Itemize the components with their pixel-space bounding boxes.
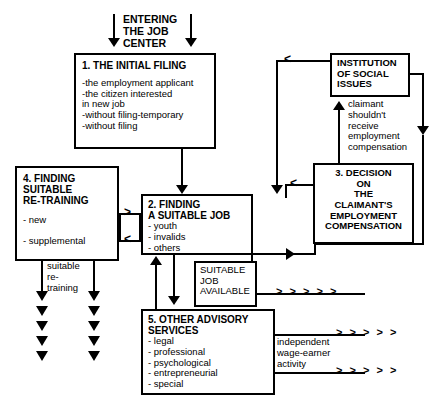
retraining-arrow-column-right <box>88 291 100 366</box>
outflow-arrows-3: > > > > > <box>336 365 398 376</box>
retraining-arrow-right-3 <box>88 321 100 331</box>
label-independent-activity: independent wage-earner activity <box>277 337 330 369</box>
arrowhead-institution-right <box>417 126 429 135</box>
box-initial-filing[interactable]: 1. THE INITIAL FILING -the employment ap… <box>74 53 216 149</box>
entry-arrowhead-left <box>108 38 120 47</box>
box-retraining-title: 4. FINDING SUITABLE RE-TRAINING <box>23 173 111 207</box>
retraining-arrow-right-2 <box>88 306 100 316</box>
entry-line-left <box>113 14 115 40</box>
arrowhead-advisory-to-job <box>150 256 162 265</box>
line-institution-right-v <box>422 73 424 129</box>
box-decision[interactable]: 3. DECISION ON THE CLAIMANT'S EMPLOYMENT… <box>313 163 414 244</box>
chevron-decision-inflow: < <box>290 177 297 189</box>
box-advisory-services[interactable]: 5. OTHER ADVISORY SERVICES - legal - pro… <box>141 309 275 395</box>
box-retraining-items: - new - supplemental <box>23 215 111 247</box>
entry-line-right <box>190 14 192 40</box>
line-job-to-decision-h <box>253 253 315 255</box>
box-suitable-job-available[interactable]: SUITABLE JOB AVAILABLE <box>194 261 257 307</box>
box-finding-job-items: - youth - invalids - others <box>148 221 246 253</box>
box-finding-job-title: 2. FINDING A SUITABLE JOB <box>148 199 246 221</box>
line-decision-feedback-v <box>285 184 287 198</box>
retraining-arrow-left-5 <box>36 351 48 361</box>
arrowhead-filing-to-job <box>176 185 188 194</box>
outflow-arrows-2: > > > > > <box>336 327 398 338</box>
line-decision-to-institution <box>338 110 340 166</box>
retraining-arrow-right-5 <box>88 351 100 361</box>
chevron-institution-inflow: < <box>284 53 291 65</box>
entry-label: ENTERING THE JOB CENTER <box>123 14 185 50</box>
box-advisory-services-title: 5. OTHER ADVISORY SERVICES <box>148 314 268 336</box>
line-retraining-edge-v <box>119 213 121 241</box>
box-institution-title: INSTITUTION OF SOCIAL ISSUES <box>337 58 403 90</box>
line-decision-right-v <box>422 135 424 245</box>
line-institution-feedback-v <box>276 60 278 189</box>
retraining-arrow-left-3 <box>36 321 48 331</box>
arrowhead-job-to-advisory <box>168 296 180 305</box>
line-advisory-to-job-up <box>155 262 157 310</box>
label-suitable-retraining: suitable re- training <box>47 261 80 293</box>
chevron-job-to-retraining: < <box>124 233 131 245</box>
retraining-arrow-column-left <box>36 291 48 366</box>
line-filing-to-job <box>181 149 183 188</box>
box-initial-filing-items: -the employment applicant -the citizen i… <box>82 78 208 131</box>
flowchart-canvas: ENTERING THE JOB CENTER 1. THE INITIAL F… <box>0 0 436 405</box>
entry-arrowhead-right <box>185 38 197 47</box>
arrowhead-job-to-decision <box>286 248 295 260</box>
label-claimant-note: claimant shouldn't receive employment co… <box>348 99 407 153</box>
retraining-arrow-left-4 <box>36 336 48 346</box>
arrowhead-institution-feedback <box>271 185 283 194</box>
box-initial-filing-title: 1. THE INITIAL FILING <box>82 60 208 71</box>
outflow-arrows-1: > > > > > <box>276 286 338 297</box>
retraining-arrow-right-4 <box>88 336 100 346</box>
line-retraining-out-right <box>93 261 95 295</box>
box-advisory-services-items: - legal - professional - psychological -… <box>148 336 268 389</box>
box-institution-social-issues[interactable]: INSTITUTION OF SOCIAL ISSUES <box>330 53 410 97</box>
box-decision-title: 3. DECISION ON THE CLAIMANT'S EMPLOYMENT… <box>320 168 407 232</box>
retraining-arrow-right-1 <box>88 291 100 301</box>
retraining-arrow-left-2 <box>36 306 48 316</box>
box-finding-job[interactable]: 2. FINDING A SUITABLE JOB - youth - inva… <box>141 194 253 255</box>
line-retraining-out-left <box>41 261 43 295</box>
box-suitable-job-available-title: SUITABLE JOB AVAILABLE <box>200 265 251 297</box>
arrowhead-decision-to-institution <box>333 101 345 110</box>
chevron-retraining-to-job: > <box>124 206 131 218</box>
box-retraining[interactable]: 4. FINDING SUITABLE RE-TRAINING - new - … <box>15 166 119 261</box>
